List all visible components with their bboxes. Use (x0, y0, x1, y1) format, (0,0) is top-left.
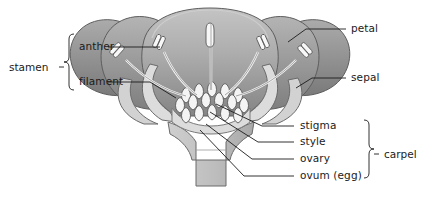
flower-diagram: stamen anther filament petal sepal stigm… (0, 0, 424, 201)
bracket-carpel (364, 120, 379, 178)
label-petal: petal (351, 23, 378, 34)
stigma (206, 23, 214, 47)
label-filament: filament (79, 76, 123, 87)
group-label-carpel: carpel (384, 149, 417, 160)
label-style: style (300, 136, 326, 147)
label-sepal: sepal (351, 72, 379, 83)
label-ovum: ovum (egg) (300, 170, 362, 181)
label-ovary: ovary (300, 153, 330, 164)
label-stigma: stigma (300, 120, 336, 131)
label-anther: anther (79, 41, 114, 52)
group-label-stamen: stamen (9, 62, 48, 73)
